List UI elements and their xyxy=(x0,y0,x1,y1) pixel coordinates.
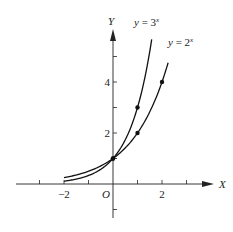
x-axis-arrow-icon xyxy=(202,181,214,187)
y-tick-label: 2 xyxy=(105,127,111,139)
data-point xyxy=(111,156,115,160)
exponential-plot: X Y O y = 3x y = 2x −2224 xyxy=(0,0,233,232)
x-tick-label: −2 xyxy=(58,188,70,200)
series-label-2x: y = 2x xyxy=(167,36,194,48)
x-tick-label: 2 xyxy=(159,188,165,200)
marked-points xyxy=(111,80,164,161)
y-axis-arrow-icon xyxy=(110,29,116,41)
axes xyxy=(16,29,214,218)
x-axis-label: X xyxy=(218,178,227,190)
data-point xyxy=(160,80,164,84)
data-point xyxy=(135,131,139,135)
curves xyxy=(64,39,168,181)
curve-3x xyxy=(64,39,152,181)
y-axis-label: Y xyxy=(108,15,116,27)
labels: X Y O y = 3x y = 2x −2224 xyxy=(58,15,227,200)
series-label-3x: y = 3x xyxy=(133,16,160,28)
y-tick-label: 4 xyxy=(105,76,111,88)
data-point xyxy=(135,105,139,109)
curve-2x xyxy=(64,63,168,178)
origin-label: O xyxy=(102,188,110,200)
